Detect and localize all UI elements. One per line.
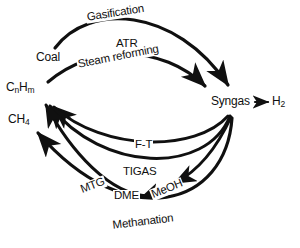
node-ch4: CH4 — [8, 113, 29, 126]
node-h2: H2 — [272, 95, 285, 108]
process-flow-diagram: Coal CnHm CH4 Syngas H2 Gasification ATR… — [0, 0, 300, 248]
edge-label-ft: F-T — [134, 139, 153, 151]
node-ch4-sub: 4 — [25, 117, 30, 127]
diagram-canvas — [0, 0, 300, 248]
node-cnhm: CnHm — [6, 81, 34, 94]
node-coal: Coal — [36, 51, 60, 63]
edge-label-dme: DME — [113, 190, 140, 202]
node-ch4-base: CH — [8, 112, 25, 126]
node-h2-sub: 2 — [280, 99, 285, 109]
edge-label-tigas: TIGAS — [122, 166, 158, 178]
node-syngas: Syngas — [211, 95, 250, 107]
node-cnhm-sub-m: m — [27, 85, 34, 95]
node-coal-label: Coal — [36, 50, 60, 64]
node-syngas-label: Syngas — [211, 94, 250, 108]
edge-ft — [54, 107, 228, 142]
